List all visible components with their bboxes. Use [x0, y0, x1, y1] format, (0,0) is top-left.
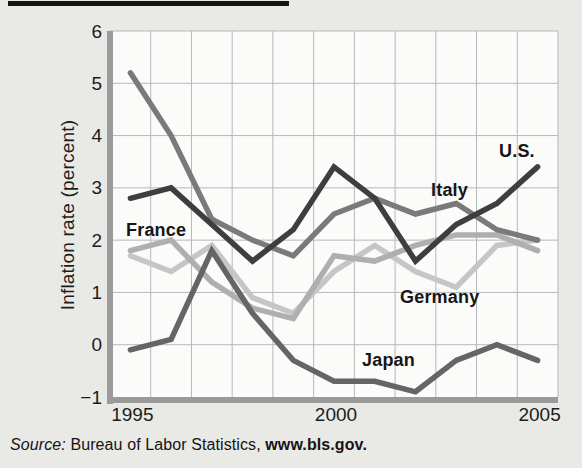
y-tick-label: 6 — [91, 21, 102, 42]
y-tick-label: 0 — [91, 334, 102, 355]
x-axis-bar — [107, 397, 558, 403]
y-tick-label: 3 — [91, 177, 102, 198]
series-label-germany: Germany — [400, 287, 479, 307]
x-tick-label: 2000 — [315, 404, 357, 425]
y-axis-title: Inflation rate (percent) — [57, 85, 79, 345]
series-label-france: France — [126, 220, 186, 240]
source-label: Source: — [10, 436, 66, 453]
y-axis-bar — [107, 31, 113, 404]
source-note: Source: Bureau of Labor Statistics, www.… — [10, 436, 367, 454]
series-label-japan: Japan — [362, 350, 415, 370]
source-text: Bureau of Labor Statistics, — [66, 436, 265, 453]
x-tick-label: 2005 — [518, 404, 560, 425]
y-tick-label: 1 — [91, 282, 102, 303]
y-tick-label: −1 — [80, 387, 102, 408]
x-tick-label: 1995 — [111, 404, 153, 425]
inflation-chart-figure: 6543210−1199520002005GermanyFranceJapanI… — [0, 0, 582, 468]
source-url: www.bls.gov. — [265, 436, 367, 453]
y-tick-label: 2 — [91, 230, 102, 251]
y-tick-label: 4 — [91, 125, 102, 146]
inflation-line-chart: 6543210−1199520002005GermanyFranceJapanI… — [0, 0, 582, 468]
series-label-us: U.S. — [499, 141, 535, 161]
y-tick-label: 5 — [91, 73, 102, 94]
series-label-italy: Italy — [431, 180, 468, 200]
